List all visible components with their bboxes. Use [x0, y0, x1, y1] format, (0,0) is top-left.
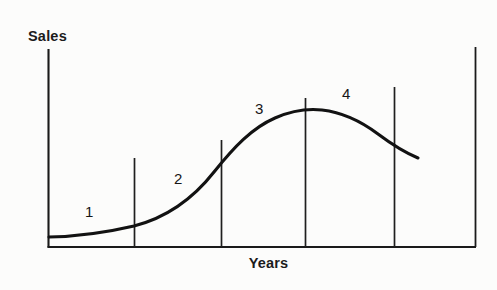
y-axis-title: Sales: [28, 28, 67, 44]
stage-label-2: 2: [174, 170, 182, 187]
stage-label-1: 1: [85, 203, 93, 220]
stage-label-3: 3: [255, 100, 263, 117]
chart-figure: Sales Years 1 2 3 4: [0, 0, 497, 290]
sales-curve-line: [49, 110, 418, 237]
x-axis-title: Years: [0, 255, 497, 271]
stage-label-4: 4: [342, 85, 350, 102]
chart-plot-area: [0, 0, 497, 290]
